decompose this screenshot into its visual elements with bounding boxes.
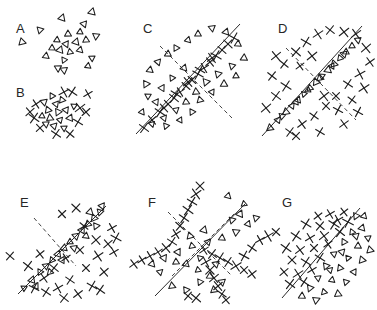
open-triangle-marker [39,112,45,117]
open-triangle-marker [349,42,355,48]
x-cross-marker [95,285,104,294]
x-cross-marker [316,128,325,137]
open-triangle-marker [146,66,153,72]
open-triangle-marker [176,117,182,123]
x-cross-marker [248,270,256,278]
x-cross-marker [263,231,273,241]
x-cross-marker [192,294,201,303]
open-triangle-marker [158,85,164,92]
open-triangle-marker [54,250,61,257]
x-cross-marker [298,120,307,129]
open-triangle-marker [359,256,366,263]
x-cross-marker [326,26,335,35]
open-triangle-marker [241,200,247,206]
x-cross-marker [307,51,316,60]
open-triangle-marker [232,229,239,236]
x-cross-marker [286,128,294,136]
x-cross-marker [23,261,32,270]
panel-label-e: E [20,196,29,209]
x-cross-marker [268,72,276,80]
open-triangle-marker [144,80,151,88]
x-cross-marker [224,258,233,267]
open-triangle-marker [220,80,227,86]
open-triangle-marker [170,75,176,81]
x-cross-marker [200,246,208,254]
open-triangle-marker [62,41,68,48]
open-triangle-marker [358,224,365,231]
x-cross-marker [293,269,302,278]
open-triangle-marker [203,79,210,87]
x-cross-marker [272,52,281,61]
open-triangle-marker [335,290,342,297]
open-triangle-marker [229,217,236,224]
x-cross-marker [100,268,108,276]
open-triangle-marker [50,93,56,99]
open-triangle-marker [352,233,359,240]
open-triangle-marker [218,234,225,240]
open-triangle-marker [62,107,68,114]
figure-container: ABCDEFG [0,0,377,310]
x-cross-marker [361,43,370,52]
x-cross-marker [314,212,322,220]
x-cross-marker [84,90,92,98]
x-cross-marker [74,290,83,299]
open-triangle-marker [45,106,52,113]
open-triangle-marker [70,245,77,252]
x-cross-marker [218,290,226,298]
open-triangle-marker [253,215,260,222]
open-triangle-marker [180,64,187,71]
open-triangle-marker [160,115,166,122]
panel-label-c: C [143,22,152,35]
panel-label-g: G [282,196,292,209]
x-cross-marker [224,40,232,48]
open-triangle-marker [315,276,321,282]
open-triangle-marker [94,223,100,230]
x-cross-marker [296,62,304,70]
panel-label-f: F [148,196,156,209]
x-cross-marker [67,87,77,97]
x-cross-marker [353,107,362,116]
open-triangle-marker [174,248,180,255]
open-triangle-marker [342,239,348,246]
open-triangle-marker [215,71,222,78]
dashed-axis-line [168,212,232,276]
open-triangle-marker [195,30,202,36]
x-cross-marker [231,261,241,271]
x-cross-marker [111,233,121,243]
open-triangle-marker [240,54,247,60]
x-cross-marker [214,282,223,291]
x-cross-marker [339,27,348,36]
x-cross-marker [36,250,44,258]
x-cross-marker [355,69,365,79]
x-cross-marker [130,260,138,268]
x-cross-marker [108,224,117,233]
dashed-axis-line [286,48,356,120]
x-cross-marker [240,266,247,273]
x-cross-marker [333,105,342,114]
open-triangle-marker [367,246,374,253]
open-triangle-marker [42,52,49,58]
open-triangle-marker [77,28,83,34]
open-triangle-marker [50,123,57,130]
x-cross-marker [110,248,119,257]
open-triangle-marker [40,99,47,106]
x-cross-marker [319,91,328,100]
x-cross-marker [32,100,40,108]
open-triangle-marker [236,210,243,217]
x-cross-marker [281,243,291,253]
open-triangle-marker [145,94,151,100]
open-triangle-marker [208,89,214,95]
open-triangle-marker [302,91,308,97]
open-triangle-marker [19,38,26,45]
open-triangle-marker [66,114,73,121]
x-cross-marker [66,130,74,138]
open-triangle-marker [60,67,67,74]
x-cross-marker [184,292,192,300]
x-cross-marker [322,102,329,109]
open-triangle-marker [169,282,176,289]
x-cross-marker [281,81,291,91]
x-cross-marker [53,283,62,292]
open-triangle-marker [193,88,200,95]
panel-label-a: A [16,22,25,35]
open-triangle-marker [354,38,361,44]
